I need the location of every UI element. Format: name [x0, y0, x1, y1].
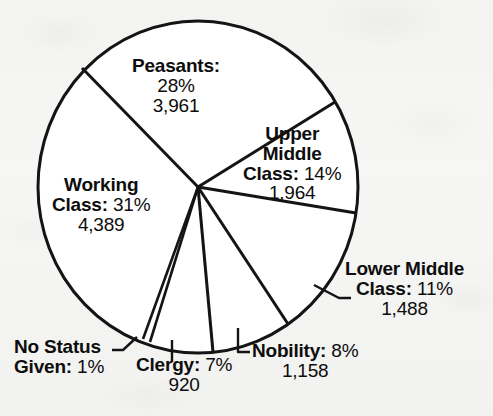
slice-label-peasants-percent: 28% [132, 76, 220, 96]
slice-label-upper-middle-class-percent: Class: 14% [243, 164, 341, 184]
slice-label-lower-middle-class-percent: Class: 11% [345, 279, 464, 299]
slice-label-no-status-line1: No Status [14, 337, 104, 357]
slice-label-peasants-count: 3,961 [132, 96, 220, 116]
slice-label-lower-middle-class: Lower Middle Class: 11% 1,488 [345, 259, 464, 318]
slice-label-clergy-count: 920 [136, 375, 232, 395]
slice-label-clergy: Clergy: 7% 920 [136, 355, 232, 395]
slice-label-lower-middle-count: 1,488 [345, 299, 464, 319]
slice-label-nobility: Nobility: 8% 1,158 [252, 341, 358, 381]
slice-label-no-status-given: No Status Given: 1% [14, 337, 104, 377]
slice-label-upper-middle-count: 1,964 [243, 183, 341, 203]
slice-label-upper-middle-class: Upper Middle Class: 14% 1,964 [243, 124, 341, 203]
slice-label-clergy-percent: Clergy: 7% [136, 355, 232, 375]
slice-label-working-line1: Working [52, 175, 150, 195]
leader-line-no-status [112, 337, 137, 350]
slice-label-working-count: 4,389 [52, 215, 150, 235]
slice-label-no-status-percent: Given: 1% [14, 357, 104, 377]
slice-label-peasants-title: Peasants: [132, 56, 220, 76]
slice-label-nobility-count: 1,158 [252, 361, 358, 381]
slice-label-upper-middle-line1: Upper [243, 124, 341, 144]
slice-label-upper-middle-line2: Middle [243, 144, 341, 164]
slice-label-working-class-percent: Class: 31% [52, 195, 150, 215]
slice-label-nobility-percent: Nobility: 8% [252, 341, 358, 361]
slice-label-lower-middle-line1: Lower Middle [345, 259, 464, 279]
pie-chart: Peasants: 28% 3,961 Upper Middle Class: … [0, 0, 493, 416]
slice-label-working-class: Working Class: 31% 4,389 [52, 175, 150, 234]
slice-label-peasants: Peasants: 28% 3,961 [132, 56, 220, 115]
